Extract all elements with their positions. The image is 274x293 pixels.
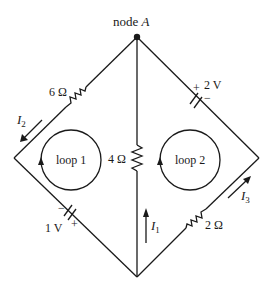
branch-center [132, 37, 142, 277]
loop-2-label: loop 2 [175, 153, 205, 167]
source-1v-label: 1 V [45, 221, 63, 235]
source-1v-minus: − [58, 201, 65, 215]
loop-1-label: loop 1 [56, 153, 86, 167]
source-1v-plus: + [71, 217, 78, 231]
circuit-diagram: node A 6 Ω I2 + 2 V − 4 Ω I1 [0, 0, 274, 293]
source-2v-plate-minus [194, 97, 202, 108]
node-a-label: node A [113, 14, 150, 29]
resistor-6-ohm [66, 87, 86, 107]
loop-2-direction-arrow [157, 157, 163, 165]
current-i1-arrow [143, 208, 149, 243]
source-2v-label: 2 V [204, 78, 222, 92]
resistor-4-ohm [132, 145, 142, 171]
branch-top-left [14, 37, 137, 158]
loop-1-direction-arrow [38, 157, 44, 165]
current-i2-label: I2 [16, 112, 26, 129]
branch-top-right [137, 37, 259, 158]
current-i1-label: I1 [150, 218, 160, 235]
resistor-2-ohm [186, 209, 206, 228]
resistor-2-ohm-label: 2 Ω [205, 218, 223, 232]
current-i3-label: I3 [240, 188, 250, 205]
source-2v-plus: + [193, 81, 200, 95]
source-2v-minus: − [204, 91, 211, 105]
resistor-6-ohm-label: 6 Ω [49, 85, 67, 99]
resistor-4-ohm-label: 4 Ω [108, 152, 126, 166]
